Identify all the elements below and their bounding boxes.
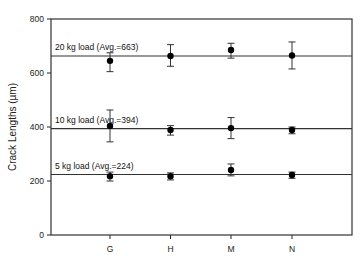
data-point-group — [289, 172, 296, 178]
data-point-marker — [107, 58, 113, 64]
data-point-marker — [228, 47, 234, 53]
data-point-marker — [228, 125, 234, 131]
x-tick-label: G — [107, 244, 114, 254]
y-tick-label: 200 — [30, 176, 44, 186]
y-tick-label: 800 — [30, 14, 44, 24]
data-point-marker — [107, 123, 113, 129]
data-point-marker — [167, 127, 173, 133]
load-annotations: 20 kg load (Avg.=663)10 kg load (Avg.=39… — [55, 42, 138, 171]
y-tick-label: 0 — [39, 230, 44, 240]
load-annotation: 20 kg load (Avg.=663) — [55, 42, 138, 52]
load-annotation: 5 kg load (Avg.=224) — [55, 161, 134, 171]
data-point-marker — [107, 173, 113, 179]
y-tick-label: 600 — [30, 68, 44, 78]
data-point-marker — [289, 52, 295, 58]
data-point-marker — [289, 127, 295, 133]
data-point-group — [167, 126, 174, 135]
y-axis-title-group: Crack Lengths (µm) — [7, 83, 18, 171]
x-tick-label: M — [227, 244, 234, 254]
x-tick-label: N — [289, 244, 295, 254]
data-point-group — [228, 118, 235, 139]
x-axis-ticks: GHMN — [107, 235, 295, 254]
data-point-marker — [167, 173, 173, 179]
data-points — [107, 42, 296, 181]
data-point-marker — [289, 172, 295, 178]
y-tick-label: 400 — [30, 122, 44, 132]
y-axis-title: Crack Lengths (µm) — [7, 83, 18, 171]
load-annotation: 10 kg load (Avg.=394) — [55, 115, 138, 125]
x-tick-label: H — [167, 244, 173, 254]
data-point-group — [107, 172, 114, 181]
data-point-marker — [167, 53, 173, 59]
crack-length-chart: Crack Lengths (µm) 0200400600800 GHMN 20… — [0, 0, 364, 262]
data-point-marker — [228, 167, 234, 173]
data-point-group — [289, 42, 296, 69]
y-axis-ticks: 0200400600800 — [30, 14, 51, 240]
data-point-group — [167, 45, 174, 67]
data-point-group — [289, 127, 296, 134]
